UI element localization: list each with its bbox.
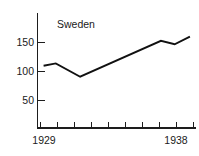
y-tick-label-150: 150	[16, 36, 34, 48]
line-chart: 150 100 50 1929 1938 Sweden	[0, 0, 199, 156]
chart-container: 150 100 50 1929 1938 Sweden	[0, 0, 199, 156]
chart-title: Sweden	[57, 18, 95, 30]
chart-background	[0, 0, 199, 156]
y-tick-label-50: 50	[22, 94, 34, 106]
y-tick-label-100: 100	[16, 65, 34, 77]
x-tick-label-1938: 1938	[164, 134, 188, 146]
x-tick-label-1929: 1929	[32, 134, 56, 146]
